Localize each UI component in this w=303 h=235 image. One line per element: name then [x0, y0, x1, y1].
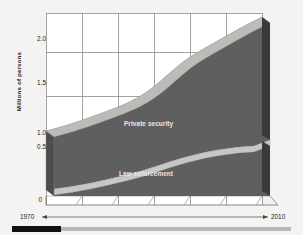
x-tick-label-start: 1970: [20, 213, 34, 220]
footer-tab: [12, 226, 61, 232]
chart-figure: Millions of persons 2.0 1.5 1.0 0.5 0: [0, 0, 303, 235]
series-label-private-security: Private security: [124, 120, 173, 127]
x-axis-tick-labels: 1970 2010: [0, 0, 303, 235]
series-label-law-enforcement: Law enforcement: [119, 170, 173, 177]
x-tick-label-end: 2010: [271, 213, 285, 220]
